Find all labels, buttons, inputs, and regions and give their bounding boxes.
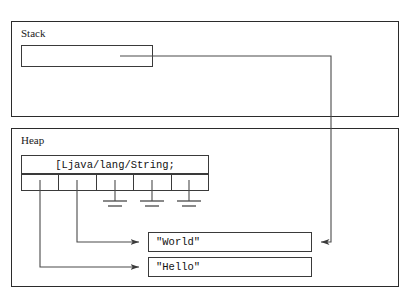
string-object-world: "World" — [148, 232, 312, 252]
array-cell-1 — [59, 175, 96, 190]
string-object-hello: "Hello" — [148, 257, 312, 277]
stack-region-label: Stack — [21, 28, 45, 39]
array-cells — [21, 174, 209, 191]
array-cell-4 — [172, 175, 208, 190]
array-type-descriptor: [Ljava/lang/String; — [55, 159, 175, 171]
array-cell-2 — [97, 175, 134, 190]
string-object-hello-text: "Hello" — [156, 261, 200, 273]
array-cell-0 — [22, 175, 59, 190]
heap-region-label: Heap — [21, 135, 44, 146]
memory-diagram: Stack Heap [Ljava/lang/String; "World" "… — [0, 0, 410, 300]
array-type-header: [Ljava/lang/String; — [21, 155, 209, 174]
stack-variable-slot — [21, 45, 153, 67]
stack-region — [11, 21, 399, 117]
string-object-world-text: "World" — [156, 236, 200, 248]
array-cell-3 — [134, 175, 171, 190]
